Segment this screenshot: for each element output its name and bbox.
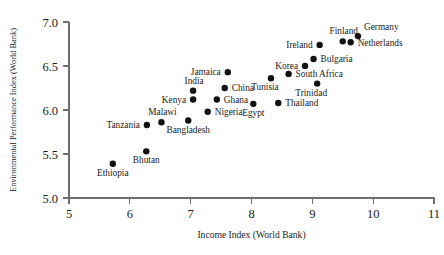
data-point-label: Jamaica (191, 67, 221, 77)
data-point-label: Thailand (285, 98, 318, 108)
data-point-label: South Africa (296, 69, 343, 79)
data-point (314, 80, 320, 86)
data-point (158, 119, 164, 125)
data-point (302, 63, 308, 69)
data-point-label: Tunisia (251, 82, 279, 92)
x-tick-label: 8 (248, 207, 254, 221)
data-point-label: Ghana (224, 95, 248, 105)
data-point (110, 160, 116, 166)
data-point (285, 71, 291, 77)
y-tick-label: 7.0 (42, 16, 58, 30)
data-point-label: Egypt (242, 108, 265, 118)
x-tick-label: 6 (127, 207, 133, 221)
x-tick-label: 5 (66, 207, 72, 221)
data-point-label: Kenya (162, 95, 186, 105)
data-point-label: Ethiopia (97, 168, 129, 178)
y-tick-label: 5.5 (42, 148, 58, 162)
data-point (185, 117, 191, 123)
data-point (250, 101, 256, 107)
data-point-label: Nigeria (215, 107, 243, 117)
data-point (275, 100, 281, 106)
data-point-label: Finland (330, 26, 359, 36)
data-point-label: Korea (275, 61, 298, 71)
x-tick-label: 9 (309, 207, 315, 221)
data-point (268, 75, 274, 81)
data-point (205, 109, 211, 115)
y-axis-title: Environmental Performance Index (World B… (9, 28, 18, 192)
data-point-label: Tanzania (106, 120, 139, 130)
data-point (143, 148, 149, 154)
data-point (316, 42, 322, 48)
data-point-label: Trinidad (295, 88, 327, 98)
data-point (310, 56, 316, 62)
data-point (190, 87, 196, 93)
x-tick-label: 10 (367, 207, 380, 221)
data-point-label: Bulgaria (321, 54, 353, 64)
y-tick-label: 6.5 (42, 60, 58, 74)
data-point (214, 96, 220, 102)
data-point-label: Bhutan (133, 155, 160, 165)
data-point-label: Bangladesh (167, 125, 211, 135)
data-point-label: Germany (364, 22, 399, 32)
data-point (190, 96, 196, 102)
data-point (347, 39, 353, 45)
y-tick-label: 6.0 (42, 104, 58, 118)
x-axis-title: Income Index (World Bank) (197, 229, 305, 241)
x-tick-label: 11 (428, 207, 440, 221)
data-point-label: Ireland (286, 40, 313, 50)
data-point (225, 69, 231, 75)
data-point-label: Malawi (148, 107, 177, 117)
plot-area: 5678910115.05.56.06.57.0Income Index (Wo… (0, 0, 444, 255)
data-point (355, 33, 361, 39)
data-point (222, 85, 228, 91)
y-tick-label: 5.0 (42, 192, 58, 206)
scatter-chart: 5678910115.05.56.06.57.0Income Index (Wo… (0, 0, 444, 255)
data-point-label: Netherlands (358, 38, 403, 48)
data-point (340, 38, 346, 44)
data-point (144, 122, 150, 128)
x-tick-label: 7 (188, 207, 194, 221)
